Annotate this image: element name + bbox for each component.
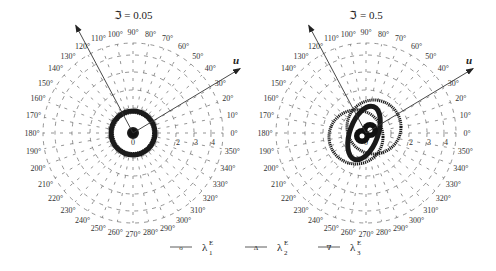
angle-label: 180° <box>24 129 39 138</box>
angle-label: 80° <box>378 30 389 39</box>
angle-label: 310° <box>423 206 438 215</box>
polar-plot-2: ℑ = 0.50°10°20°30°40°50°60°70°80°90°100°… <box>257 9 473 239</box>
angle-label: 160° <box>263 94 278 103</box>
legend-label: λ <box>202 241 208 253</box>
angle-label: 350° <box>225 147 240 156</box>
angle-label: 110° <box>91 34 106 43</box>
angle-label: 140° <box>281 64 296 73</box>
angle-label: 330° <box>446 180 461 189</box>
angle-label: 240° <box>75 216 90 225</box>
angle-label: 60° <box>411 42 422 51</box>
legend: oλE1ΔλE2∇λE3 <box>170 239 361 257</box>
angle-label: 330° <box>213 180 228 189</box>
angle-label: 150° <box>271 79 286 88</box>
legend-sub: 2 <box>284 249 288 257</box>
legend-label: λ <box>350 241 356 253</box>
angle-label: 350° <box>458 147 473 156</box>
angle-label: 170° <box>259 111 274 120</box>
angle-label: 100° <box>108 30 123 39</box>
angle-label: 310° <box>190 206 205 215</box>
angle-label: 50° <box>425 52 436 61</box>
angle-label: 160° <box>30 94 45 103</box>
angle-label: 190° <box>26 147 41 156</box>
angle-label: 80° <box>145 30 156 39</box>
radial-label: 3 <box>427 138 431 147</box>
angle-label: 200° <box>30 164 45 173</box>
angle-label: 120° <box>308 42 323 51</box>
angle-label: 150° <box>38 79 53 88</box>
legend-item: ∇λE3 <box>318 239 361 257</box>
angle-label: 180° <box>257 129 272 138</box>
angle-label: 280° <box>143 228 158 237</box>
angle-label: 110° <box>324 34 339 43</box>
legend-sup: E <box>209 239 213 247</box>
angle-label: 300° <box>409 216 424 225</box>
angle-label: 20° <box>222 94 233 103</box>
legend-sub: 3 <box>357 249 361 257</box>
radial-label: 4 <box>444 138 448 147</box>
angle-label: 0° <box>230 129 237 138</box>
angle-label: 100° <box>341 30 356 39</box>
angle-label: 230° <box>293 206 308 215</box>
angle-label: 340° <box>220 164 235 173</box>
angle-label: 70° <box>162 34 173 43</box>
radial-label: 2 <box>409 138 413 147</box>
angle-label: 130° <box>60 52 75 61</box>
angle-label: 210° <box>38 180 53 189</box>
radial-label: 2 <box>176 138 180 147</box>
angle-label: 40° <box>438 64 449 73</box>
legend-marker-icon: ∇ <box>327 244 332 252</box>
angle-label: 220° <box>281 194 296 203</box>
angle-label: 220° <box>48 194 63 203</box>
angle-label: 10° <box>227 111 238 120</box>
angle-label: 190° <box>259 147 274 156</box>
angle-label: 320° <box>203 194 218 203</box>
angle-label: 260° <box>108 228 123 237</box>
angle-label: 250° <box>91 224 106 233</box>
legend-marker-icon: o <box>179 244 183 252</box>
axis-label-u: u <box>233 54 239 66</box>
angle-label: 50° <box>192 52 203 61</box>
radial-labels: 0234 <box>131 138 215 147</box>
angle-label: 120° <box>75 42 90 51</box>
angle-label: 270° <box>125 230 140 239</box>
angle-label: 140° <box>48 64 63 73</box>
plot-title: ℑ = 0.5 <box>349 9 383 21</box>
angle-label: 10° <box>460 111 471 120</box>
legend-sup: E <box>284 239 288 247</box>
angle-label: 20° <box>455 94 466 103</box>
legend-sup: E <box>357 239 361 247</box>
polar-plot-1: ℑ = 0.050°10°20°30°40°50°60°70°80°90°100… <box>24 9 240 239</box>
angle-label: 60° <box>178 42 189 51</box>
angle-label: 130° <box>293 52 308 61</box>
legend-item: ΔλE2 <box>245 239 288 257</box>
radial-label: 0 <box>131 138 135 147</box>
angle-label: 290° <box>393 224 408 233</box>
angle-label: 0° <box>463 129 470 138</box>
angle-label: 70° <box>395 34 406 43</box>
legend-sub: 1 <box>209 249 213 257</box>
angle-label: 260° <box>341 228 356 237</box>
radial-label: 3 <box>194 138 198 147</box>
angle-label: 40° <box>205 64 216 73</box>
angle-label: 280° <box>376 228 391 237</box>
angle-label: 210° <box>271 180 286 189</box>
angle-label: 340° <box>453 164 468 173</box>
legend-item: oλE1 <box>170 239 213 257</box>
angle-label: 270° <box>358 230 373 239</box>
plot-title: ℑ = 0.05 <box>114 9 153 21</box>
angle-label: 90° <box>127 28 138 37</box>
angle-label: 230° <box>60 206 75 215</box>
plot-canvas: ℑ = 0.050°10°20°30°40°50°60°70°80°90°100… <box>0 0 496 271</box>
legend-label: λ <box>277 241 283 253</box>
angle-label: 200° <box>263 164 278 173</box>
legend-marker-icon: Δ <box>254 244 259 252</box>
angle-label: 320° <box>436 194 451 203</box>
angle-label: 170° <box>26 111 41 120</box>
angle-label: 300° <box>176 216 191 225</box>
polar-eigenvalue-figure: ℑ = 0.050°10°20°30°40°50°60°70°80°90°100… <box>0 0 496 271</box>
axis-label-u: u <box>466 54 472 66</box>
radial-label: 4 <box>211 138 215 147</box>
angle-label: 290° <box>160 224 175 233</box>
angle-label: 250° <box>324 224 339 233</box>
